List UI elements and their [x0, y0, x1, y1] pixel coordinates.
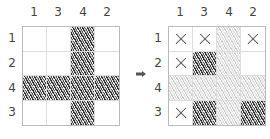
empty-cell	[95, 27, 119, 52]
row-clue: 3	[4, 105, 20, 119]
shaded-cell	[241, 101, 265, 126]
shaded-cell	[47, 76, 71, 101]
shaded-cell	[217, 101, 241, 126]
shaded-cell	[193, 76, 217, 101]
shaded-cell	[193, 52, 217, 77]
shaded-cell	[71, 27, 95, 52]
col-clue: 4	[217, 5, 241, 19]
empty-cell	[47, 52, 71, 77]
col-clue: 2	[241, 5, 265, 19]
shaded-cell	[217, 76, 241, 101]
col-clue: 3	[192, 5, 216, 19]
after-puzzle: 1 3 4 2 1 2 4 3	[146, 0, 270, 139]
empty-cell	[241, 52, 265, 77]
shaded-cell	[23, 76, 47, 101]
row-clue: 1	[150, 31, 166, 45]
col-clue: 4	[71, 5, 95, 19]
cross-mark-cell	[241, 27, 265, 52]
empty-cell	[47, 27, 71, 52]
cross-mark-cell	[169, 27, 193, 52]
row-clue: 4	[150, 81, 166, 95]
cross-mark-cell	[193, 27, 217, 52]
row-clue: 3	[150, 105, 166, 119]
row-clue: 1	[4, 31, 20, 45]
shaded-cell	[95, 76, 119, 101]
shaded-cell	[71, 76, 95, 101]
row-clue: 4	[4, 81, 20, 95]
shaded-cell	[169, 76, 193, 101]
row-clue: 2	[150, 56, 166, 70]
shaded-cell	[241, 76, 265, 101]
shaded-cell	[193, 101, 217, 126]
shaded-cell	[71, 52, 95, 77]
cross-mark-cell	[169, 101, 193, 126]
empty-cell	[23, 101, 47, 126]
col-clue: 3	[46, 5, 70, 19]
col-clue: 1	[22, 5, 46, 19]
shaded-cell	[217, 52, 241, 77]
right-arrow-icon	[136, 71, 146, 77]
col-clue: 2	[95, 5, 119, 19]
before-puzzle: 1 3 4 2 1 2 4 3	[0, 0, 130, 139]
row-clue: 2	[4, 56, 20, 70]
empty-cell	[47, 101, 71, 126]
after-grid	[168, 26, 266, 126]
empty-cell	[95, 52, 119, 77]
empty-cell	[95, 101, 119, 126]
empty-cell	[23, 52, 47, 77]
shaded-cell	[71, 101, 95, 126]
cross-mark-cell	[169, 52, 193, 77]
empty-cell	[23, 27, 47, 52]
col-clue: 1	[168, 5, 192, 19]
before-grid	[22, 26, 120, 126]
shaded-cell	[217, 27, 241, 52]
